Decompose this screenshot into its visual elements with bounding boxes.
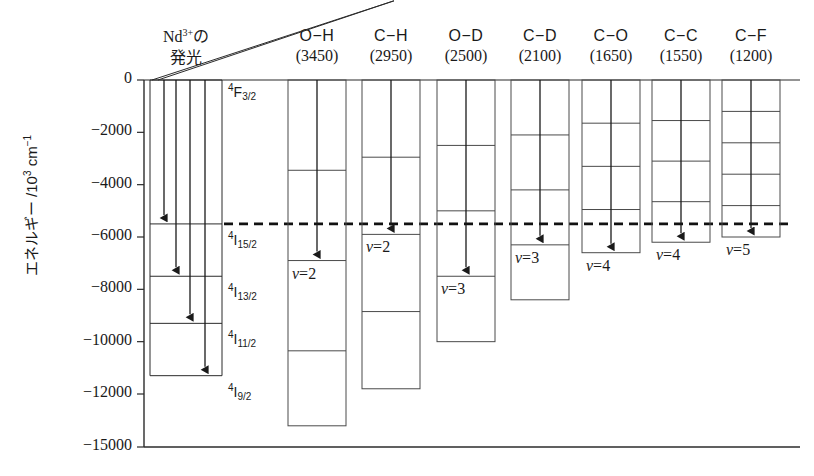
figure-canvas: エネルギー /103 cm−1 0−2000−4000−6000−8000−10… [0,0,814,476]
diagram-vector-layer [0,0,814,476]
